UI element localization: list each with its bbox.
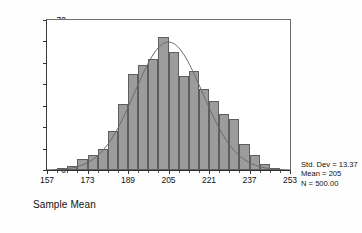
x-tick-minor-mark (77, 171, 78, 173)
histogram-bar (148, 59, 158, 170)
x-tick-mark (169, 171, 170, 174)
histogram-bar (189, 71, 199, 170)
histogram-bar (57, 168, 67, 170)
plot-area (46, 19, 291, 171)
x-tick-minor-mark (118, 171, 119, 173)
x-tick-minor-mark (189, 171, 190, 173)
histogram-bar (250, 155, 260, 170)
x-tick-minor-mark (280, 171, 281, 173)
x-tick-minor-mark (57, 171, 58, 173)
stat-mean: Mean = 205 (301, 169, 358, 178)
x-tick-mark (128, 171, 129, 174)
x-tick-mark (88, 171, 89, 174)
x-tick-minor-mark (138, 171, 139, 173)
histogram-bar (118, 104, 128, 170)
x-tick-label: 205 (154, 176, 184, 185)
x-tick-minor-mark (270, 171, 271, 173)
x-tick-minor-mark (179, 171, 180, 173)
x-tick-minor-mark (260, 171, 261, 173)
histogram-bar (219, 114, 229, 170)
histogram-bar (209, 101, 219, 170)
x-tick-mark (47, 171, 48, 174)
histogram-bar (169, 52, 179, 170)
x-tick-label: 173 (73, 176, 103, 185)
stat-std-dev: Std. Dev = 13.37 (301, 160, 358, 169)
histogram-bar (67, 166, 77, 170)
histogram-bar (239, 144, 249, 170)
histogram-bar (98, 149, 108, 170)
histogram-bar (88, 155, 98, 170)
x-tick-label: 221 (194, 176, 224, 185)
histogram-bar (108, 131, 118, 170)
x-tick-minor-mark (239, 171, 240, 173)
x-tick-minor-mark (67, 171, 68, 173)
x-tick-minor-mark (199, 171, 200, 173)
histogram-bar (229, 119, 239, 170)
x-tick-label: 189 (113, 176, 143, 185)
histogram-bar (260, 164, 270, 170)
x-tick-mark (209, 171, 210, 174)
x-tick-minor-mark (219, 171, 220, 173)
histogram-bar (199, 89, 209, 170)
x-tick-minor-mark (98, 171, 99, 173)
histogram-bar (77, 159, 87, 170)
statistics-box: Std. Dev = 13.37 Mean = 205 N = 500.00 (301, 160, 358, 188)
stat-n: N = 500.00 (301, 179, 358, 188)
histogram-bar (138, 65, 148, 170)
histogram-bar (270, 168, 280, 170)
x-tick-label: 237 (235, 176, 265, 185)
x-axis-title: Sample Mean (33, 199, 96, 210)
x-tick-mark (290, 171, 291, 174)
histogram-bar (128, 74, 138, 170)
histogram-bars (47, 20, 290, 170)
histogram-bar (158, 37, 168, 170)
x-tick-label: 157 (32, 176, 62, 185)
x-tick-minor-mark (158, 171, 159, 173)
x-tick-minor-mark (148, 171, 149, 173)
x-tick-minor-mark (108, 171, 109, 173)
x-tick-minor-mark (229, 171, 230, 173)
histogram-bar (179, 76, 189, 170)
x-tick-mark (250, 171, 251, 174)
chart-canvas: 010203040506070 157173189205221237253 Sa… (0, 0, 362, 233)
